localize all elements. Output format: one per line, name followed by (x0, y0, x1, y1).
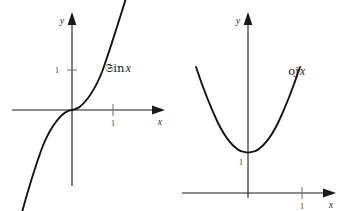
sinh-x-tick-label: 1 (111, 118, 116, 128)
cosh-x-axis-arrowhead (323, 189, 336, 198)
sinh-function-label-main: 𝔖in (105, 61, 125, 75)
plot-sinh: 1 1 y x 𝔖inx (0, 0, 176, 211)
hyperbolic-functions-figure: 1 1 y x 𝔖inx 1 1 y x (0, 0, 352, 211)
cosh-function-label-main: 𝔆oj (288, 64, 299, 78)
sinh-svg: 1 1 y x (0, 0, 176, 211)
cosh-svg: 1 1 y x (176, 0, 352, 211)
cosh-x-axis-label: x (328, 199, 334, 210)
cosh-y-axis-label: y (235, 15, 241, 26)
sinh-x-axis-arrowhead (152, 106, 165, 115)
cosh-function-label: 𝔆ojx (288, 64, 305, 78)
cosh-x-tick-label: 1 (300, 201, 305, 211)
plot-cosh: 1 1 y x 𝔆ojx (176, 0, 352, 211)
sinh-y-axis-arrowhead (68, 12, 77, 25)
sinh-y-axis-label: y (59, 15, 65, 26)
sinh-x-axis-label: x (157, 116, 163, 127)
cosh-y-axis-arrowhead (244, 12, 253, 25)
cosh-function-label-variable: x (299, 65, 305, 77)
cosh-y-tick-label: 1 (239, 157, 244, 167)
sinh-function-label-variable: x (125, 62, 131, 74)
sinh-function-label: 𝔖inx (105, 61, 131, 75)
sinh-y-tick-label: 1 (55, 65, 60, 75)
